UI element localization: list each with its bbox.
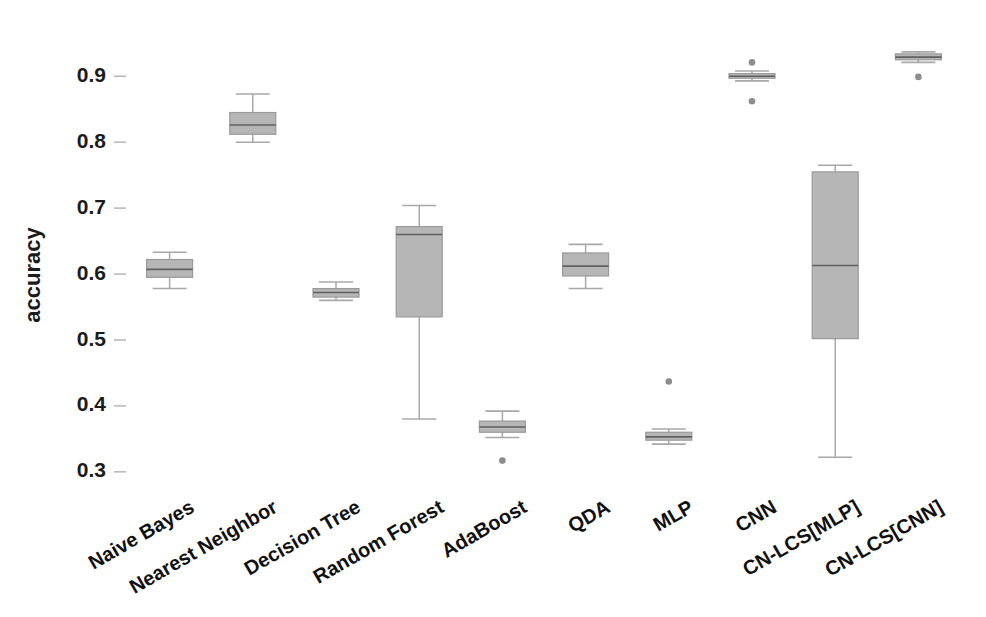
y-axis-title: accuracy <box>20 227 45 323</box>
box-rect <box>563 253 609 276</box>
y-tick-label: 0.6 <box>77 261 106 284</box>
box-rect <box>147 260 193 278</box>
y-tick-label: 0.8 <box>77 129 107 152</box>
box-rect <box>230 113 276 135</box>
boxplot-svg: 0.30.40.50.60.70.80.9 accuracy Naive Bay… <box>0 0 986 617</box>
y-axis-label-text: accuracy <box>20 227 45 323</box>
y-tick-label: 0.3 <box>77 458 106 481</box>
y-tick-label: 0.4 <box>77 392 107 415</box>
boxplot-chart: 0.30.40.50.60.70.80.9 accuracy Naive Bay… <box>0 0 986 617</box>
y-tick-label: 0.7 <box>77 195 106 218</box>
outlier-point <box>915 74 922 81</box>
box-rect <box>396 227 442 317</box>
box-rect <box>812 172 858 339</box>
outlier-point <box>666 378 673 385</box>
y-tick-label: 0.5 <box>77 327 107 350</box>
outlier-point <box>749 98 756 105</box>
y-tick-label: 0.9 <box>77 63 106 86</box>
outlier-point <box>749 59 756 66</box>
outlier-point <box>499 457 506 464</box>
